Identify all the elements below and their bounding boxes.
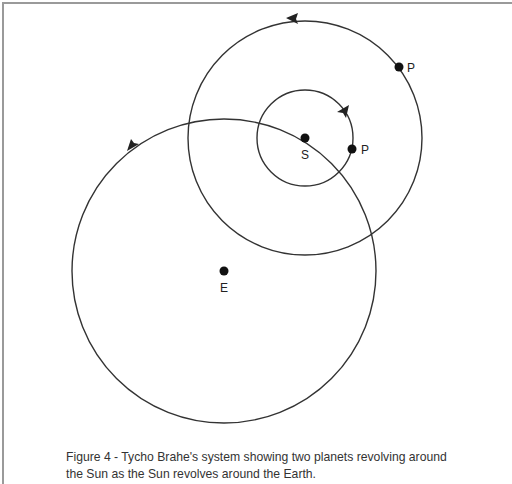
tycho-diagram: S E P P xyxy=(0,0,512,484)
earth-label: E xyxy=(220,281,228,295)
caption-line-2: the Sun as the Sun revolves around the E… xyxy=(66,466,486,483)
caption-line-1: Figure 4 - Tycho Brahe's system showing … xyxy=(66,449,486,466)
outer-planet-label: P xyxy=(407,61,415,75)
sun-label: S xyxy=(301,148,309,162)
inner-planet-dot xyxy=(348,145,357,154)
outer-planet-dot xyxy=(395,63,404,72)
inner-planet-label: P xyxy=(361,143,369,157)
sun-dot xyxy=(301,134,310,143)
figure-caption: Figure 4 - Tycho Brahe's system showing … xyxy=(66,449,486,483)
earth-dot xyxy=(220,267,229,276)
